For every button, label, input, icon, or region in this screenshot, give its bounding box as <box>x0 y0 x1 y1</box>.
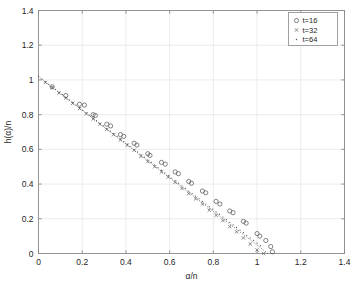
tick-marks <box>39 11 345 254</box>
data-point-dot <box>195 196 196 197</box>
data-point-dot <box>209 206 210 207</box>
data-point-circle <box>214 199 218 203</box>
y-tick-label: 0 <box>29 249 34 259</box>
data-point-dot <box>215 211 216 212</box>
data-point-dot <box>48 84 49 85</box>
data-point-cross <box>208 208 211 211</box>
data-point-circle <box>176 172 180 176</box>
data-point-dot <box>253 240 254 241</box>
data-point-circle <box>122 134 126 138</box>
series-t-64 <box>38 76 261 246</box>
y-tick-label: 0.8 <box>22 110 34 120</box>
data-point-dot <box>130 146 131 147</box>
data-point-dot <box>137 151 138 152</box>
data-point-cross <box>214 214 217 217</box>
data-point-dot <box>243 232 244 233</box>
chart-canvas: 00.20.40.60.811.21.4 00.20.40.60.811.21.… <box>0 0 356 282</box>
data-point-cross <box>235 230 238 233</box>
data-point-dot <box>154 164 155 165</box>
data-point-dot <box>157 167 158 168</box>
data-point-circle <box>77 102 81 106</box>
data-point-dot <box>181 185 182 186</box>
data-point-circle <box>231 211 235 215</box>
data-point-cross <box>249 242 252 245</box>
y-tick-label: 1.4 <box>22 6 34 16</box>
data-point-dot <box>250 237 251 238</box>
y-tick-label: 1 <box>29 75 34 85</box>
data-point-dot <box>147 159 148 160</box>
data-point-circle <box>269 244 273 248</box>
x-tick-label: 0.6 <box>164 257 176 267</box>
data-point-dot <box>161 170 162 171</box>
data-point-circle <box>109 124 113 128</box>
data-point-dot <box>96 120 97 121</box>
legend-label: t=32 <box>303 26 318 35</box>
data-point-dot <box>226 219 227 220</box>
data-point-dot <box>174 180 175 181</box>
y-tick-label: 0.4 <box>22 179 34 189</box>
legend-label: t=64 <box>303 35 318 44</box>
data-point-dot <box>151 162 152 163</box>
legend: t=16t=32t=64 <box>289 13 338 46</box>
data-point-dot <box>55 89 56 90</box>
y-axis-tick-labels: 00.20.40.60.811.21.4 <box>22 6 34 259</box>
y-tick-label: 1.2 <box>22 40 34 50</box>
gridlines <box>39 11 345 254</box>
data-point-dot <box>246 235 247 236</box>
x-tick-label: 1 <box>255 257 260 267</box>
legend-label: t=16 <box>303 16 318 25</box>
y-tick-label: 0.6 <box>22 144 34 154</box>
data-point-dot <box>171 177 172 178</box>
data-point-dot <box>140 154 141 155</box>
data-point-cross <box>228 225 231 228</box>
data-point-dot <box>236 227 237 228</box>
data-point-dot <box>144 157 145 158</box>
x-tick-label: 0.8 <box>207 257 219 267</box>
data-point-dot <box>219 214 220 215</box>
data-point-dot <box>116 136 117 137</box>
data-point-dot <box>222 216 223 217</box>
data-point-dot <box>38 76 39 77</box>
x-axis-tick-labels: 00.20.40.60.811.21.4 <box>36 257 351 267</box>
data-point-dot <box>75 104 76 105</box>
x-tick-label: 0 <box>36 257 41 267</box>
data-point-dot <box>229 222 230 223</box>
data-point-circle <box>82 103 86 107</box>
data-point-dot <box>41 78 42 79</box>
data-point-cross <box>242 236 245 239</box>
data-point-dot <box>123 141 124 142</box>
data-point-dot <box>82 110 83 111</box>
data-point-dot <box>164 172 165 173</box>
data-point-dot <box>188 190 189 191</box>
data-point-circle <box>264 238 268 242</box>
data-point-dot <box>205 203 206 204</box>
plot-border <box>39 11 345 254</box>
x-tick-label: 1.2 <box>295 257 307 267</box>
y-axis-title: h(α)/n <box>3 121 13 144</box>
data-point-dot <box>168 175 169 176</box>
data-point-dot <box>178 183 179 184</box>
data-point-dot <box>212 209 213 210</box>
data-point-dot <box>233 224 234 225</box>
data-point-circle <box>204 191 208 195</box>
data-point-dot <box>198 198 199 199</box>
data-point-dot <box>239 229 240 230</box>
data-point-dot <box>103 125 104 126</box>
data-point-circle <box>218 202 222 206</box>
series-t-16 <box>50 85 274 254</box>
y-tick-label: 0.2 <box>22 214 34 224</box>
data-point-dot <box>256 242 257 243</box>
x-tick-label: 0.4 <box>120 257 132 267</box>
data-point-dot <box>110 131 111 132</box>
legend-marker-dot-icon <box>296 39 298 41</box>
data-point-dot <box>185 188 186 189</box>
data-point-circle <box>258 234 262 238</box>
x-tick-label: 0.2 <box>76 257 88 267</box>
data-point-dot <box>69 99 70 100</box>
data-point-dot <box>202 201 203 202</box>
data-point-cross <box>221 219 224 222</box>
figure-container: 00.20.40.60.811.21.4 00.20.40.60.811.21.… <box>0 0 356 282</box>
data-point-dot <box>62 94 63 95</box>
data-point-dot <box>89 115 90 116</box>
axes-frame <box>39 11 345 254</box>
